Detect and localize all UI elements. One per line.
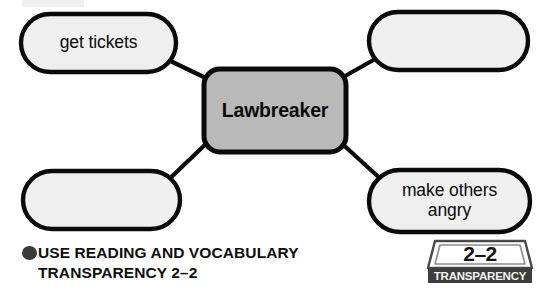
node-oval-top-right[interactable]	[369, 12, 528, 70]
caption-text: USE READING AND VOCABULARY TRANSPARENCY …	[38, 243, 299, 282]
badge-number: 2–2	[427, 239, 533, 269]
worksheet-page: get tickets make others angry Lawbreaker…	[0, 0, 540, 291]
caption: USE READING AND VOCABULARY TRANSPARENCY …	[22, 243, 299, 282]
bullet-icon	[22, 246, 37, 260]
node-oval-top-left[interactable]	[21, 14, 176, 72]
node-oval-bottom-right[interactable]	[369, 170, 530, 232]
transparency-badge: 2–2 TRANSPARENCY	[427, 239, 533, 284]
badge-word: TRANSPARENCY	[427, 268, 533, 283]
center-node-box[interactable]	[204, 69, 346, 152]
node-oval-bottom-left[interactable]	[23, 171, 180, 229]
